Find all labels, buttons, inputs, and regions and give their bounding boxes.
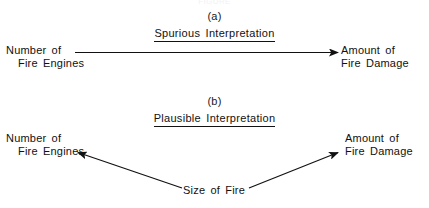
- panel-b-left-node: Number of Fire Engines: [6, 132, 84, 158]
- panel-b-right-node: Amount of Fire Damage: [345, 132, 413, 158]
- panel-a-right-node-line1: Amount of: [341, 44, 409, 57]
- panel-a-right-node: Amount of Fire Damage: [341, 44, 409, 70]
- arrow-size-to-damage: [249, 153, 338, 189]
- panel-a-right-node-line2: Fire Damage: [341, 57, 409, 70]
- arrow-size-to-engines: [78, 153, 182, 189]
- panel-b-left-node-line2: Fire Engines: [6, 145, 84, 158]
- panel-a-left-node-line1: Number of: [6, 44, 84, 57]
- panel-a-title-row: Spurious Interpretation: [0, 25, 429, 42]
- panel-b-right-node-line1: Amount of: [345, 132, 413, 145]
- panel-b-right-node-line2: Fire Damage: [345, 145, 413, 158]
- figure-root: FIGURE (a) Spurious Interpretation Numbe…: [0, 0, 429, 208]
- panel-b-title: Plausible Interpretation: [154, 112, 276, 127]
- panel-b-mid-node: Size of Fire: [183, 184, 245, 197]
- panel-b-letter: (b): [0, 95, 429, 108]
- figure-top-caption: FIGURE: [0, 0, 429, 4]
- panel-b-title-row: Plausible Interpretation: [0, 110, 429, 127]
- panel-a-left-node: Number of Fire Engines: [6, 44, 84, 70]
- panel-b-left-node-line1: Number of: [6, 132, 84, 145]
- panel-a-letter: (a): [0, 10, 429, 23]
- panel-a-title: Spurious Interpretation: [154, 27, 274, 42]
- panel-a-left-node-line2: Fire Engines: [6, 57, 84, 70]
